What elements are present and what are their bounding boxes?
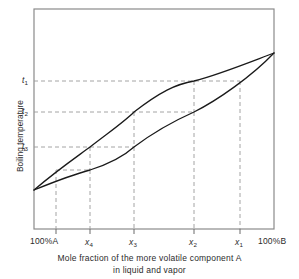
x-axis-ticks [56, 229, 240, 234]
y-tick-label-t3: t3 [22, 142, 28, 152]
x-tick-label-x2: x2 [189, 238, 197, 248]
x-tick-label-x4: x4 [85, 238, 93, 248]
x-axis-left-label: 100%A [30, 237, 58, 246]
x-axis-title-line1: Mole fraction of the more volatile compo… [0, 254, 299, 263]
y-tick-sub-t1: 1 [25, 79, 29, 86]
x-tick-sub-x1: 1 [239, 241, 243, 248]
x-tick-sub-x4: 4 [89, 241, 93, 248]
y-tick-label-t2: t2 [22, 107, 28, 117]
x-tick-sub-x2: 2 [193, 241, 197, 248]
x-axis-title-line2: in liquid and vapor [0, 266, 299, 275]
plot-frame [34, 9, 274, 229]
x-tick-label-x1: x1 [235, 238, 243, 248]
x-axis-right-label: 100%B [258, 237, 286, 246]
x-tick-label-x3: x3 [129, 238, 137, 248]
y-tick-sub-t3: 3 [25, 145, 29, 152]
y-tick-sub-t2: 2 [25, 110, 29, 117]
x-tick-sub-x3: 3 [133, 241, 137, 248]
y-tick-label-t1: t1 [22, 76, 28, 86]
